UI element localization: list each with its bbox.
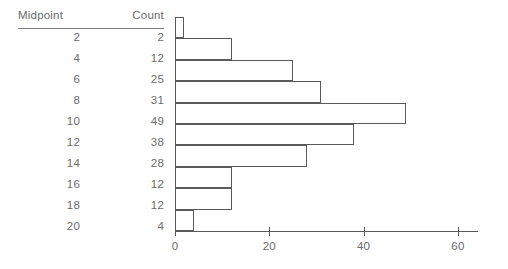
y-axis-line bbox=[175, 17, 176, 232]
x-axis-tick-label: 0 bbox=[160, 240, 190, 252]
bar bbox=[175, 103, 406, 124]
x-axis-line bbox=[175, 231, 478, 232]
x-axis-tick-label: 60 bbox=[443, 240, 473, 252]
bar bbox=[175, 124, 354, 145]
x-axis-tick bbox=[364, 227, 365, 236]
bar bbox=[175, 210, 194, 231]
bar bbox=[175, 38, 232, 59]
x-axis-tick bbox=[175, 227, 176, 236]
x-axis-tick bbox=[269, 227, 270, 236]
x-axis-tick-label: 20 bbox=[254, 240, 284, 252]
x-axis-tick-label: 40 bbox=[349, 240, 379, 252]
x-axis-tick bbox=[458, 227, 459, 236]
bar bbox=[175, 17, 184, 38]
bar bbox=[175, 145, 307, 166]
bar bbox=[175, 167, 232, 188]
bar bbox=[175, 60, 293, 81]
bar bbox=[175, 81, 321, 102]
histogram-chart: 0204060 bbox=[0, 0, 508, 269]
bar bbox=[175, 188, 232, 209]
